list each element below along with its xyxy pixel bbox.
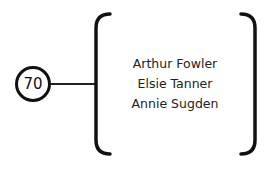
member-list: Arthur Fowler Elsie Tanner Annie Sugden	[110, 54, 240, 114]
left-bracket	[96, 14, 110, 154]
member-name: Arthur Fowler	[110, 54, 240, 74]
member-name: Annie Sugden	[110, 94, 240, 114]
member-name: Elsie Tanner	[110, 74, 240, 94]
right-bracket	[241, 14, 255, 154]
